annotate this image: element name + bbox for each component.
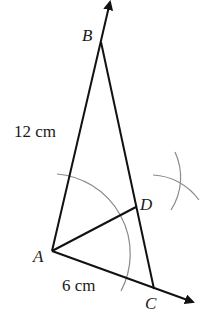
segment-bc bbox=[101, 42, 154, 289]
length-ac-label: 6 cm bbox=[62, 277, 96, 294]
point-d-label: D bbox=[140, 196, 152, 213]
segment-ad bbox=[52, 207, 136, 251]
construction-arc-a bbox=[57, 174, 130, 291]
construction-diagram bbox=[0, 0, 222, 330]
construction-arc-2 bbox=[153, 175, 199, 200]
point-b-label: B bbox=[82, 27, 92, 44]
point-c-label: C bbox=[145, 295, 156, 312]
ray-ab bbox=[52, 2, 110, 251]
point-a-label: A bbox=[33, 248, 43, 265]
length-ab-label: 12 cm bbox=[14, 123, 56, 140]
